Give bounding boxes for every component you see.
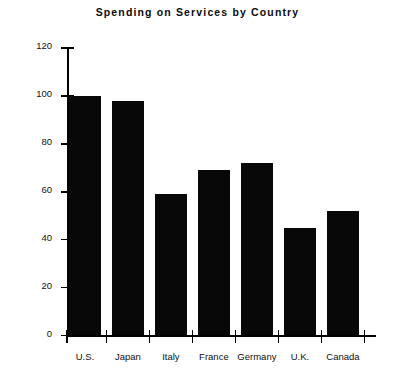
x-axis-tick	[106, 330, 108, 343]
x-axis-tick-label: Italy	[162, 351, 179, 362]
x-axis-tick-label: U.K.	[291, 351, 309, 362]
bar-chart: Spending on Services by Country Per Pers…	[0, 0, 395, 376]
x-axis-tick	[149, 330, 151, 343]
y-axis-tick-label: 100	[36, 88, 52, 99]
x-axis-tick	[364, 330, 366, 343]
x-axis-tick-origin	[66, 330, 68, 343]
x-axis-tick-label: Japan	[115, 351, 141, 362]
bar	[241, 163, 273, 335]
bar	[69, 96, 101, 336]
y-axis-tick-label: 20	[41, 280, 52, 291]
bar	[327, 211, 359, 336]
x-axis-line	[67, 335, 376, 337]
y-axis-tick-label: 60	[41, 184, 52, 195]
x-axis-tick-label: Canada	[326, 351, 359, 362]
y-axis-tick-label: 40	[41, 232, 52, 243]
bar	[112, 101, 144, 336]
bar	[284, 228, 316, 336]
y-axis-tick-label: 0	[47, 328, 52, 339]
chart-title: Spending on Services by Country	[0, 6, 395, 18]
x-axis-tick	[321, 330, 323, 343]
y-axis-tick-label: 120	[36, 40, 52, 51]
x-axis-tick-label: Germany	[237, 351, 276, 362]
plot-area: 020406080100120 U.S.JapanItalyFranceGerm…	[67, 48, 376, 337]
x-axis-tick	[278, 330, 280, 343]
bar	[155, 194, 187, 335]
x-axis-tick-label: France	[199, 351, 229, 362]
x-axis-tick-label: U.S.	[76, 351, 94, 362]
bar	[198, 170, 230, 335]
y-axis-tick: 120	[61, 47, 74, 49]
x-axis-tick	[192, 330, 194, 343]
x-axis-tick	[235, 330, 237, 343]
y-axis-tick-label: 80	[41, 136, 52, 147]
